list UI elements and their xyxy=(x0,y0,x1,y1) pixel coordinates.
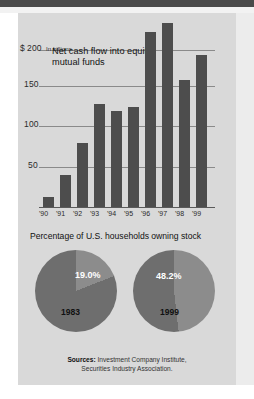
bar-1994 xyxy=(111,111,122,207)
panel-right-margin xyxy=(236,13,254,385)
sources-line-2: Securities Industry Association. xyxy=(81,365,172,372)
pie-1999-year: 1999 xyxy=(160,307,179,317)
pie-section-title: Percentage of U.S. households owning sto… xyxy=(30,231,230,241)
bar-1993 xyxy=(94,104,105,207)
pie-chart-1983: 19.0% 1983 xyxy=(35,250,127,342)
xtick-1993: '93 xyxy=(86,210,103,217)
bar-plot-area xyxy=(39,13,215,207)
sources-note: Sources: Investment Company Institute, S… xyxy=(28,356,226,373)
x-axis-line xyxy=(39,207,215,208)
bar-1991 xyxy=(60,175,71,207)
page-top-strip xyxy=(0,0,254,7)
ytick-label-50: 50 xyxy=(28,160,38,170)
pie-1983-percent: 19.0% xyxy=(75,270,101,280)
xtick-1997: '97 xyxy=(154,210,171,217)
bar-1996 xyxy=(145,32,156,207)
infographic-root: $ 200 In billions 150 100 50 Net cash fl… xyxy=(0,0,254,399)
xtick-1996: '96 xyxy=(137,210,154,217)
sources-label: Sources: xyxy=(67,356,95,363)
ytick-label-100: 100 xyxy=(24,119,39,129)
bar-1992 xyxy=(77,143,88,207)
xtick-1991: '91 xyxy=(52,210,69,217)
ytick-label-200-prefix: $ xyxy=(20,43,25,53)
xtick-1998: '98 xyxy=(171,210,188,217)
xtick-1990: '90 xyxy=(35,210,52,217)
bar-1998 xyxy=(179,80,190,207)
pie-1999-circle: 48.2% 1999 xyxy=(133,250,215,332)
bar-1999 xyxy=(196,55,207,207)
pie-1983-circle: 19.0% 1983 xyxy=(35,250,117,332)
xtick-1994: '94 xyxy=(103,210,120,217)
pie-chart-1999: 48.2% 1999 xyxy=(133,250,225,342)
xtick-1992: '92 xyxy=(69,210,86,217)
pie-1983-year: 1983 xyxy=(61,307,80,317)
bar-1995 xyxy=(128,107,139,207)
pie-1999-percent: 48.2% xyxy=(156,271,182,281)
xtick-1995: '95 xyxy=(120,210,137,217)
bar-1997 xyxy=(162,23,173,207)
sources-line-1: Investment Company Institute, xyxy=(96,356,187,363)
bar-1990 xyxy=(43,197,54,207)
xtick-1999: '99 xyxy=(188,210,205,217)
ytick-label-150: 150 xyxy=(24,79,39,89)
bar-chart: $ 200 In billions 150 100 50 Net cash fl… xyxy=(18,13,236,228)
